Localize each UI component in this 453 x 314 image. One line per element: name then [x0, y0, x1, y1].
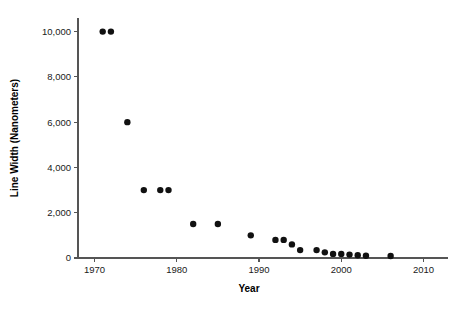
- data-point: [363, 253, 369, 259]
- x-tick-label: 2000: [331, 264, 352, 275]
- data-point: [108, 28, 114, 34]
- x-axis-title: Year: [238, 283, 259, 294]
- x-axis-tick-labels: 19701980199020002010: [84, 264, 434, 275]
- data-point: [99, 28, 105, 34]
- scatter-chart: 02,0004,0006,0008,00010,000 197019801990…: [0, 0, 453, 314]
- data-point: [190, 221, 196, 227]
- x-tick-label: 1990: [248, 264, 269, 275]
- data-point: [387, 253, 393, 259]
- tick-marks: [74, 32, 424, 262]
- data-point: [313, 247, 319, 253]
- x-tick-label: 1970: [84, 264, 105, 275]
- data-point: [141, 187, 147, 193]
- data-point: [280, 237, 286, 243]
- data-points: [99, 28, 393, 259]
- x-tick-label: 1980: [166, 264, 187, 275]
- data-point: [248, 232, 254, 238]
- data-point: [330, 251, 336, 257]
- data-point: [215, 221, 221, 227]
- y-tick-label: 0: [66, 252, 71, 263]
- y-axis-tick-labels: 02,0004,0006,0008,00010,000: [42, 26, 71, 263]
- data-point: [355, 252, 361, 258]
- data-point: [338, 251, 344, 257]
- data-point: [157, 187, 163, 193]
- data-point: [272, 237, 278, 243]
- axes: [78, 18, 448, 258]
- y-axis-title: Line Width (Nanometers): [9, 79, 20, 197]
- y-tick-label: 6,000: [47, 117, 71, 128]
- data-point: [297, 247, 303, 253]
- x-tick-label: 2010: [413, 264, 434, 275]
- plot-area: 02,0004,0006,0008,00010,000 197019801990…: [0, 0, 453, 314]
- y-tick-label: 8,000: [47, 71, 71, 82]
- data-point: [165, 187, 171, 193]
- y-tick-label: 4,000: [47, 162, 71, 173]
- y-tick-label: 10,000: [42, 26, 71, 37]
- data-point: [322, 249, 328, 255]
- data-point: [346, 251, 352, 257]
- data-point: [124, 119, 130, 125]
- data-point: [289, 241, 295, 247]
- y-tick-label: 2,000: [47, 207, 71, 218]
